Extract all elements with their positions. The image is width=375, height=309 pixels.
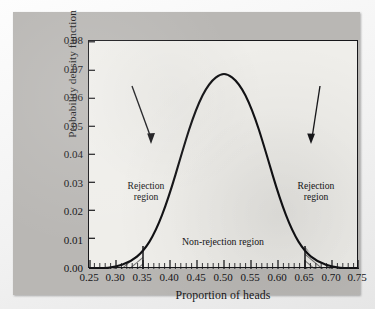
figure-root: Probability density function 0.08 0.07 0… [0,0,375,309]
y-tick-label: 0.04 [43,149,83,160]
annotation-non-rejection-region: Non-rejection region [165,237,281,248]
y-tick-label: 0.01 [43,235,83,246]
rejection-region-right-shading [303,221,359,269]
x-tick-label: 0.75 [335,272,375,283]
y-tick-label: 0.03 [43,178,83,189]
annotation-rejection-region-right: Rejection region [285,181,347,202]
y-tick-label: 0.02 [43,206,83,217]
plot-canvas [89,41,359,269]
y-tick-label: 0.07 [43,64,83,75]
x-axis-tick-labels: 0.25 0.30 0.35 0.40 0.45 0.50 0.55 0.60 … [88,272,358,288]
y-axis-ticks [89,42,95,268]
plot-frame: Rejection region Rejection region Non-re… [88,40,358,268]
annotation-arrow-left [132,86,155,144]
figure-panel: Probability density function 0.08 0.07 0… [13,12,360,295]
y-tick-label: 0.08 [43,35,83,46]
x-axis-title: Proportion of heads [88,288,358,303]
y-tick-label: 0.05 [43,121,83,132]
y-tick-label: 0.06 [43,92,83,103]
annotation-rejection-region-left: Rejection region [115,181,177,202]
annotation-arrow-right [307,86,320,144]
rejection-region-left-shading [89,221,145,269]
y-axis-tick-labels: 0.08 0.07 0.06 0.05 0.04 0.03 0.02 0.01 … [37,40,83,268]
